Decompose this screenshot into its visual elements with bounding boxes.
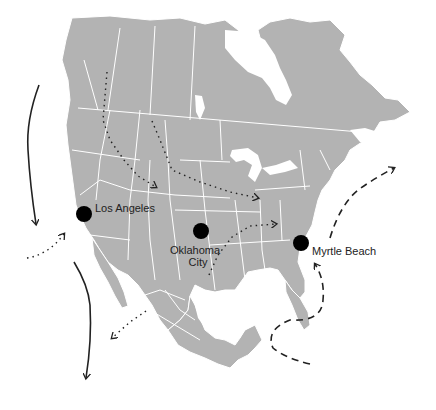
city-label-myrtle-beach: Myrtle Beach <box>312 245 376 257</box>
route-atlantic-north <box>330 168 394 238</box>
city-marker-myrtle-beach <box>293 235 309 251</box>
city-label-los-angeles: Los Angeles <box>95 202 155 214</box>
city-label-oklahoma-city: Oklahoma City <box>170 244 220 268</box>
north-america-map <box>0 0 436 410</box>
route-pacific-south <box>74 262 91 378</box>
city-marker-los-angeles <box>76 206 92 222</box>
city-label-oklahoma-line1: Oklahoma <box>170 244 220 256</box>
route-pacific-inflow <box>27 234 64 258</box>
route-mexico-pacific <box>112 311 146 338</box>
city-marker-oklahoma-city <box>193 223 209 239</box>
city-label-oklahoma-line2: City <box>170 256 220 268</box>
route-pacific-north <box>28 85 39 224</box>
